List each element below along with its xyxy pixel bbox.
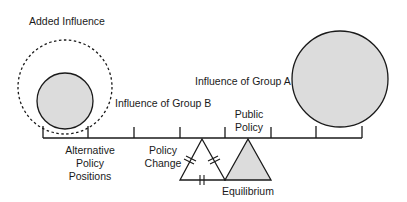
alternative-line2: Policy (55, 157, 125, 170)
equilibrium-label: Equilibrium (222, 185, 274, 198)
added-influence-label: Added Influence (29, 15, 105, 28)
alternative-positions-label: Alternative Policy Positions (55, 144, 125, 183)
public-policy-line1: Public (225, 108, 273, 121)
policy-change-label: Policy Change (140, 144, 186, 170)
alternative-line3: Positions (55, 170, 125, 183)
alternative-line1: Alternative (55, 144, 125, 157)
public-policy-label: Public Policy (225, 108, 273, 134)
group-a-circle (292, 31, 388, 127)
policy-change-line1: Policy (140, 144, 186, 157)
influence-group-b-label: Influence of Group B (115, 97, 211, 110)
public-policy-line2: Policy (225, 121, 273, 134)
policy-equilibrium-diagram: Added Influence Influence of Group A Inf… (0, 0, 407, 202)
group-b-circle (37, 73, 93, 129)
influence-group-a-label: Influence of Group A (195, 75, 291, 88)
policy-change-line2: Change (140, 157, 186, 170)
equilibrium-fulcrum (225, 139, 271, 180)
